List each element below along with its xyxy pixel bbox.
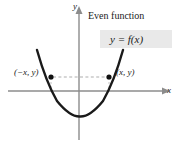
- point-marker-left: [48, 74, 53, 79]
- even-function-caption: Even function: [88, 11, 144, 21]
- point-marker-right: [106, 74, 111, 79]
- parabola-curve: [37, 50, 123, 117]
- even-function-figure: y x Even function y = f(x) (−x, y) (x, y…: [0, 0, 178, 145]
- drop-lines: [51, 78, 109, 91]
- y-axis: [76, 6, 83, 140]
- x-axis-label: x: [167, 86, 171, 95]
- function-equation: y = f(x): [110, 34, 143, 45]
- x-axis: [8, 88, 170, 95]
- y-axis-label: y: [73, 2, 77, 11]
- point-label-left: (−x, y): [14, 68, 39, 77]
- point-label-right: (x, y): [116, 68, 134, 77]
